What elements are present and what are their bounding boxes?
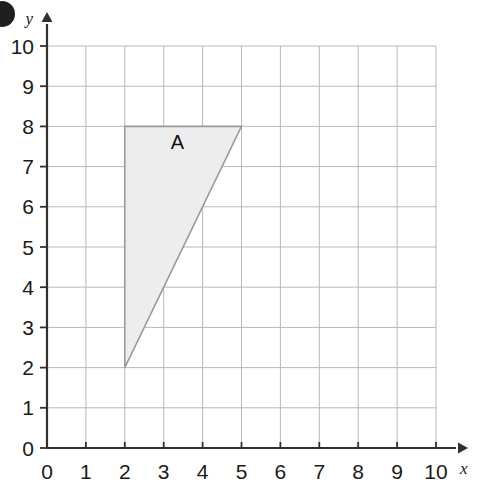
x-tick-label: 5 <box>236 460 248 483</box>
coordinate-grid-figure: 012345678910 012345678910 x y A <box>0 0 479 488</box>
y-tick-label: 10 <box>11 35 34 58</box>
x-tick-label: 2 <box>119 460 131 483</box>
y-tick-label: 9 <box>22 75 34 98</box>
y-tick-label: 1 <box>22 396 34 419</box>
page-bullet-mark <box>0 1 15 27</box>
y-tick-label: 0 <box>22 437 34 460</box>
x-tick-label: 4 <box>197 460 209 483</box>
x-axis-tick-labels: 012345678910 <box>41 460 448 483</box>
y-tick-label: 8 <box>22 115 34 138</box>
y-tick-label: 4 <box>22 276 34 299</box>
x-tick-label: 1 <box>80 460 92 483</box>
x-tick-label: 6 <box>275 460 287 483</box>
x-tick-label: 8 <box>352 460 364 483</box>
y-axis-arrow-icon <box>42 12 53 22</box>
shape-label-a: A <box>171 131 185 153</box>
figure-canvas: 012345678910 012345678910 x y A <box>0 0 479 488</box>
x-axis-arrow-icon <box>458 443 468 454</box>
gridlines-group <box>47 46 436 448</box>
x-axis-label: x <box>459 459 468 478</box>
x-tick-label: 10 <box>424 460 447 483</box>
x-tick-label: 3 <box>158 460 170 483</box>
axes-group <box>42 12 469 454</box>
y-tick-label: 7 <box>22 155 34 178</box>
y-tick-label: 6 <box>22 195 34 218</box>
x-tick-label: 9 <box>391 460 403 483</box>
y-tick-label: 3 <box>22 316 34 339</box>
y-tick-label: 2 <box>22 356 34 379</box>
y-axis-tick-labels: 012345678910 <box>11 35 35 460</box>
x-tick-label: 0 <box>41 460 53 483</box>
annotations-group: A <box>171 131 185 153</box>
x-tick-label: 7 <box>313 460 325 483</box>
y-tick-label: 5 <box>22 236 34 259</box>
y-axis-label: y <box>23 9 33 28</box>
